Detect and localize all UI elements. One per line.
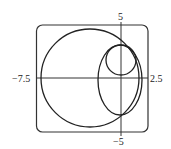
x-max-tick-label: 2.5 [150, 73, 163, 84]
y-max-tick-label: 5 [118, 11, 123, 22]
y-min-tick-label: −5 [113, 136, 124, 147]
x-min-tick-label: −7.5 [12, 73, 30, 84]
polar-plot: 5 −5 −7.5 2.5 [0, 0, 171, 149]
ellipse-curve [98, 45, 142, 115]
